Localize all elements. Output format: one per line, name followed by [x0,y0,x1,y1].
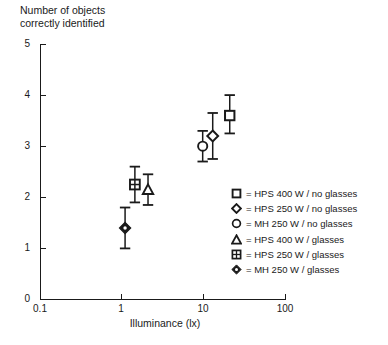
x-axis-ticks [122,294,286,300]
data-point-4 [130,167,140,203]
legend-item-hps400-no-glasses: = HPS 400 W / no glasses [228,186,357,201]
y-axis-ticks [41,45,47,249]
legend-label-5: = MH 250 W / glasses [245,262,339,277]
legend-item-mh250-no-glasses: = MH 250 W / no glasses [228,216,357,231]
open-diamond-icon [228,203,245,214]
data-point-5 [119,208,130,249]
legend: = HPS 400 W / no glasses = HPS 250 W / n… [228,186,357,277]
open-circle-icon [228,218,245,229]
open-square-icon [228,188,245,199]
data-point-0 [225,95,235,133]
plot-area [0,0,388,345]
filled-diamond-icon [228,264,245,275]
legend-item-mh250-glasses: = MH 250 W / glasses [228,262,357,277]
legend-item-hps400-glasses: = HPS 400 W / glasses [228,232,357,247]
data-point-3 [143,174,153,205]
legend-label-2: = MH 250 W / no glasses [245,216,352,231]
data-points-layer [119,95,234,248]
legend-label-1: = HPS 250 W / no glasses [245,201,357,216]
legend-item-hps250-no-glasses: = HPS 250 W / no glasses [228,201,357,216]
data-point-2 [197,131,207,162]
chart-figure: Number of objects correctly identified 5… [0,0,388,345]
legend-label-4: = HPS 250 W / glasses [245,247,344,262]
data-point-1 [207,113,218,159]
legend-item-hps250-glasses: = HPS 250 W / glasses [228,247,357,262]
legend-label-0: = HPS 400 W / no glasses [245,186,357,201]
crossed-square-icon [228,249,245,260]
open-triangle-icon [228,234,245,245]
legend-label-3: = HPS 400 W / glasses [245,232,344,247]
